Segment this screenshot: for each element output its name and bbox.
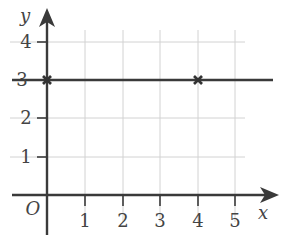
y-tick-label-2: 2 (20, 107, 31, 128)
x-tick-label-5: 5 (229, 210, 240, 231)
y-tick-label-1: 1 (20, 146, 31, 167)
y-tick-label-3: 3 (16, 69, 27, 90)
coordinate-plane-chart: 1 2 3 4 5 1 2 3 4 O x y (0, 0, 289, 237)
x-tick-label-3: 3 (154, 210, 165, 231)
y-tick-label-4: 4 (20, 31, 31, 52)
ticks (37, 42, 235, 206)
x-tick-label-2: 2 (117, 210, 128, 231)
x-tick-label-1: 1 (79, 210, 90, 231)
grid (10, 30, 245, 222)
origin-label: O (26, 198, 41, 219)
x-tick-label-4: 4 (192, 210, 203, 231)
y-axis-label: y (19, 5, 31, 26)
x-axis-label: x (258, 202, 268, 223)
